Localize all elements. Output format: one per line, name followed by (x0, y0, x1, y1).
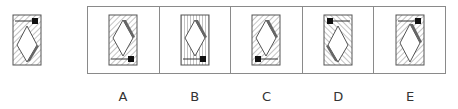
reference-shape-icon (10, 12, 44, 68)
option-a-shape-icon (106, 12, 140, 68)
option-c-shape-icon (249, 12, 283, 68)
option-a[interactable] (88, 7, 160, 73)
label-b: B (159, 88, 231, 106)
option-d-shape-icon (321, 12, 355, 68)
options-frame (87, 6, 446, 74)
option-b[interactable] (160, 7, 232, 73)
option-labels: A B C D E (87, 88, 446, 106)
label-a: A (87, 88, 159, 106)
option-e[interactable] (374, 7, 445, 73)
option-b-shape-icon (178, 12, 212, 68)
label-d: D (302, 88, 374, 106)
option-d[interactable] (303, 7, 375, 73)
reference-figure (10, 12, 44, 68)
option-e-shape-icon (393, 12, 427, 68)
label-e: E (374, 88, 446, 106)
label-c: C (231, 88, 303, 106)
option-c[interactable] (231, 7, 303, 73)
